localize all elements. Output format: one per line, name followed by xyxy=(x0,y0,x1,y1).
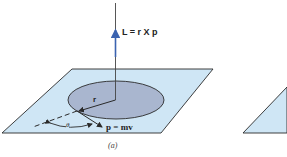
angular-momentum-diagram: L = r X p r p = mv θ (a) xyxy=(0,0,287,157)
angular-momentum-label: L = r X p xyxy=(122,28,158,37)
theta-label: θ xyxy=(66,122,69,129)
diagram-canvas xyxy=(0,0,287,157)
radius-label: r xyxy=(93,96,96,104)
figure-caption: (a) xyxy=(108,142,117,150)
orbit-disk xyxy=(68,81,164,119)
partial-plane-b xyxy=(243,87,287,133)
momentum-label: p = mv xyxy=(106,123,133,132)
